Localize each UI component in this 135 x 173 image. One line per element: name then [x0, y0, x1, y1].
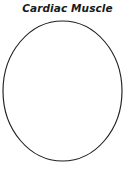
- cardiac-muscle-figure: Cardiac Muscle: [0, 0, 135, 173]
- cell-outline-ellipse: [3, 21, 122, 161]
- cell-diagram: [0, 0, 135, 173]
